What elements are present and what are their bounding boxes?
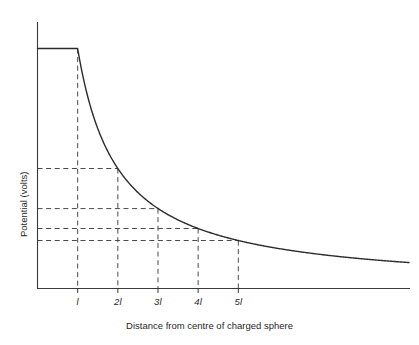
plot-area xyxy=(0,0,419,345)
x-tick-label-3: 3l xyxy=(154,296,162,307)
y-axis-title: Potential (volts) xyxy=(18,172,29,237)
potential-vs-distance-figure: l 2l 3l 4l 5l Distance from centre of ch… xyxy=(0,0,419,345)
x-tick-label-4: 4l xyxy=(194,296,202,307)
x-axis-title: Distance from centre of charged sphere xyxy=(0,320,419,331)
x-tick-label-1: l xyxy=(77,296,79,307)
x-tick-marks xyxy=(78,289,239,294)
potential-curve xyxy=(38,49,410,263)
x-tick-label-2: 2l xyxy=(114,296,122,307)
x-tick-label-5: 5l xyxy=(234,296,242,307)
guide-lines xyxy=(38,49,239,289)
